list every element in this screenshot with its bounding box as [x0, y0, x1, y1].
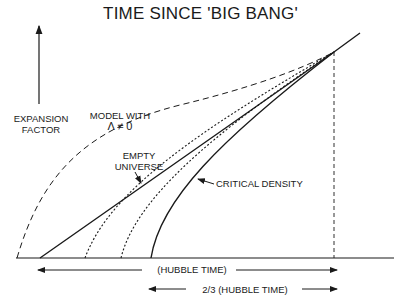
- critical-density-curve: [151, 52, 334, 258]
- expansion-diagram: [0, 0, 401, 308]
- critical-density-pointer: [198, 179, 214, 184]
- hubble-time-label: (HUBBLE TIME): [146, 264, 238, 275]
- empty-universe-label: EMPTY UNIVERSE: [108, 150, 170, 172]
- y-axis-label: EXPANSION FACTOR: [2, 113, 80, 135]
- empty-universe-pointer: [135, 172, 141, 183]
- critical-density-label: CRITICAL DENSITY: [216, 178, 326, 189]
- lambda-model-curve: [17, 52, 334, 258]
- lambda-model-label: MODEL WITH Λ ≠ 0: [84, 110, 156, 132]
- two-thirds-hubble-label: 2/3 (HUBBLE TIME): [190, 284, 300, 295]
